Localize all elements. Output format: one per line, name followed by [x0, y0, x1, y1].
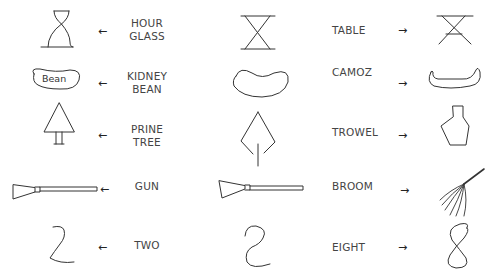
left-arrow-icon: ←: [98, 27, 107, 37]
trowel-center-drawing: [241, 112, 275, 166]
label-line: PRINE: [117, 123, 177, 136]
label-camoz: CAMOZ: [332, 66, 372, 79]
label-trowel: TROWEL: [332, 126, 378, 139]
label-line: GLASS: [117, 30, 177, 43]
two-drawing: [50, 226, 74, 262]
label-broom: BROOM: [332, 180, 373, 193]
right-arrow-icon: →: [398, 131, 407, 141]
left-arrow-icon: ←: [98, 243, 107, 253]
bean-inner-text: Bean: [42, 73, 66, 84]
label-two: TWO: [117, 239, 177, 252]
label-gun: GUN: [117, 180, 177, 193]
label-eight: EIGHT: [332, 241, 365, 254]
right-arrow-icon: →: [398, 26, 407, 36]
gun-broom-center-drawing: [219, 181, 303, 198]
label-hour-glass: HOUR GLASS: [117, 17, 177, 42]
bottle-drawing: [441, 106, 469, 145]
kidney-center-drawing: [233, 70, 288, 97]
broom-drawing: [440, 169, 484, 216]
s-curve-center-drawing: [245, 226, 270, 267]
eight-drawing: [448, 224, 468, 269]
left-arrow-icon: ←: [100, 185, 109, 195]
label-line: TWO: [117, 239, 177, 252]
hour-glass-drawing: [41, 11, 73, 47]
canoe-drawing: [429, 68, 480, 88]
gun-drawing: [13, 185, 97, 199]
label-table: TABLE: [332, 24, 365, 37]
label-line: HOUR: [117, 17, 177, 30]
right-arrow-icon: →: [398, 243, 407, 253]
figure-drawings: [0, 0, 491, 276]
label-line: GUN: [117, 180, 177, 193]
right-arrow-icon: →: [400, 186, 409, 196]
left-arrow-icon: ←: [98, 131, 107, 141]
label-prine-tree: PRINE TREE: [117, 123, 177, 148]
label-line: BEAN: [117, 83, 177, 96]
label-line: KIDNEY: [117, 70, 177, 83]
label-kidney-bean: KIDNEY BEAN: [117, 70, 177, 95]
left-arrow-icon: ←: [98, 79, 107, 89]
pine-tree-drawing: [44, 103, 74, 144]
right-arrow-icon: →: [398, 79, 407, 89]
table-drawing: [437, 16, 473, 44]
table-hourglass-center-drawing: [241, 16, 275, 49]
label-line: TREE: [117, 136, 177, 149]
